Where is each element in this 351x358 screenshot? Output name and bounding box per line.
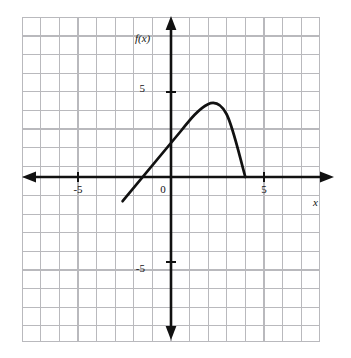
origin-label: 0 bbox=[160, 183, 166, 195]
graph-figure: f(x) x 5 -5 -5 5 0 bbox=[0, 0, 351, 358]
x-axis-label: x bbox=[312, 196, 318, 208]
x-tick-label-neg5: -5 bbox=[73, 183, 83, 195]
y-tick-label-neg5: -5 bbox=[136, 262, 146, 274]
y-axis-label: f(x) bbox=[135, 32, 151, 45]
figure-background bbox=[0, 0, 351, 358]
coordinate-plane-svg: f(x) x 5 -5 -5 5 0 bbox=[0, 0, 351, 358]
x-tick-label-5: 5 bbox=[261, 183, 267, 195]
y-tick-label-5: 5 bbox=[140, 82, 146, 94]
